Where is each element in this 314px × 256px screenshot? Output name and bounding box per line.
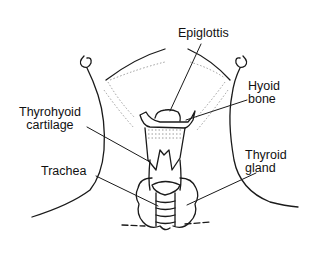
label-hyoid-bone: Hyoid bone: [248, 80, 280, 106]
muscle-shading-left: [104, 82, 135, 128]
jaw-outline-right: [188, 49, 230, 80]
label-thyroid-line2: gland: [245, 162, 287, 175]
label-hyoid-line2: bone: [248, 93, 280, 106]
thyroid-lobe-right: [173, 178, 198, 227]
label-thyroid-gland: Thyroid gland: [245, 149, 287, 175]
label-epiglottis-text: Epiglottis: [178, 27, 229, 40]
label-trachea: Trachea: [41, 165, 86, 178]
trachea-rings: [156, 201, 175, 224]
leader-hyoid: [186, 100, 247, 120]
jaw-outline: [106, 49, 165, 80]
leader-thyroid: [187, 173, 256, 205]
leader-epiglottis: [170, 44, 201, 111]
label-thyrohyoid-cartilage: Thyrohyoid cartilage: [19, 106, 81, 132]
right-ear-icon: [236, 56, 247, 67]
jaw-shading: [110, 62, 225, 80]
left-ear-icon: [80, 56, 91, 67]
label-epiglottis: Epiglottis: [178, 27, 229, 40]
label-thyrohyoid-line2: cartilage: [19, 119, 81, 132]
label-trachea-text: Trachea: [41, 165, 86, 178]
anatomy-diagram: Epiglottis Hyoid bone Thyrohyoid cartila…: [0, 0, 314, 256]
epiglottis-tip: [155, 110, 180, 121]
cartilage-shading: [148, 130, 182, 138]
thyroid-cartilage: [145, 128, 185, 170]
neck-outline-left: [32, 68, 104, 217]
leader-thyrohyoid: [87, 127, 150, 162]
muscle-shading-right: [196, 82, 228, 130]
